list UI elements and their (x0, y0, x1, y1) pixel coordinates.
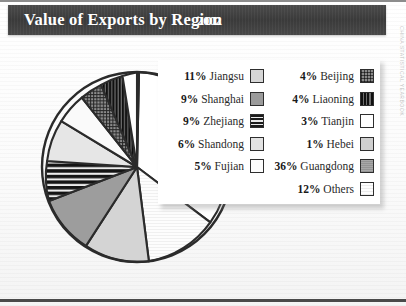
legend-item: 9% Zhejiang (158, 110, 270, 133)
legend-item-percent: 5% (194, 160, 211, 172)
legend-item-name: Shanghai (201, 93, 244, 105)
legend-item-percent: 1% (306, 138, 323, 150)
legend-item-percent: 3% (301, 115, 318, 127)
legend-item-percent: 9% (183, 115, 200, 127)
legend-item: 6% Shandong (158, 133, 270, 156)
legend-column-left: 11% Jiangsu 9% Shanghai 9% Zhejiang 6% S… (158, 65, 270, 178)
legend-item-label: 4% Liaoning (292, 93, 354, 105)
legend-swatch-shandong (250, 137, 264, 151)
legend-swatch-shanghai (250, 92, 264, 106)
legend-item-name: Fujian (215, 160, 244, 172)
legend-swatch-hebei (360, 137, 374, 151)
legend-item-name: Others (323, 183, 354, 195)
legend-swatch-zhejiang (250, 114, 264, 128)
legend-item-percent: 6% (178, 138, 195, 150)
legend-item: 11% Jiangsu (158, 65, 270, 88)
legend-item-name: Zhejiang (203, 115, 244, 127)
chart-figure: Value of Exports by Region 2002 (0, 0, 406, 306)
legend-item: 9% Shanghai (158, 88, 270, 111)
legend-swatch-guangdong (360, 159, 374, 173)
legend-item: 5% Fujian (158, 155, 270, 178)
side-caption: CHINA STATISTICAL YEARBOOK (393, 26, 405, 236)
legend-item: 12% Others (270, 178, 380, 201)
legend-item-label: 6% Shandong (178, 138, 244, 150)
title-year: 2002 (197, 14, 222, 29)
legend-item-percent: 4% (292, 93, 309, 105)
legend-item-label: 11% Jiangsu (184, 70, 244, 82)
legend-panel: 11% Jiangsu 9% Shanghai 9% Zhejiang 6% S… (158, 60, 380, 204)
legend-item-label: 1% Hebei (306, 138, 354, 150)
legend-item-label: 9% Zhejiang (183, 115, 244, 127)
legend-item-name: Shandong (198, 138, 244, 150)
legend-item-percent: 11% (184, 70, 206, 82)
legend-item-label: 4% Beijing (300, 70, 354, 82)
bottom-divider (0, 299, 406, 302)
legend-item-label: 3% Tianjin (301, 115, 354, 127)
legend-swatch-tianjin (360, 114, 374, 128)
legend-item-label: 9% Shanghai (181, 93, 244, 105)
legend-item-name: Liaoning (312, 93, 354, 105)
legend-item-percent: 12% (297, 183, 320, 195)
top-divider (0, 0, 406, 2)
legend-item: 1% Hebei (270, 133, 380, 156)
legend-item: 36% Guangdong (270, 155, 380, 178)
legend-column-right: 4% Beijing 4% Liaoning 3% Tianjin 1% Heb… (270, 65, 380, 200)
legend-item-label: 36% Guangdong (274, 160, 354, 172)
legend-swatch-beijing (360, 69, 374, 83)
legend-item: 4% Liaoning (270, 88, 380, 111)
legend-item-percent: 9% (181, 93, 198, 105)
legend-item-percent: 36% (274, 160, 297, 172)
legend-item-name: Tianjin (321, 115, 354, 127)
legend-item-name: Beijing (320, 70, 354, 82)
legend-item-label: 5% Fujian (194, 160, 244, 172)
legend-swatch-fujian (250, 159, 264, 173)
legend-swatch-liaoning (360, 92, 374, 106)
legend-item-name: Guangdong (300, 160, 354, 172)
legend-item-name: Jiangsu (210, 70, 245, 82)
legend-item: 4% Beijing (270, 65, 380, 88)
legend-swatch-others (360, 182, 374, 196)
legend-item-percent: 4% (300, 70, 317, 82)
legend-item: 3% Tianjin (270, 110, 380, 133)
title-band: Value of Exports by Region 2002 (8, 5, 386, 35)
page-title: Value of Exports by Region (24, 10, 222, 30)
legend-item-label: 12% Others (297, 183, 354, 195)
legend-swatch-jiangsu (250, 69, 264, 83)
legend-item-name: Hebei (327, 138, 354, 150)
